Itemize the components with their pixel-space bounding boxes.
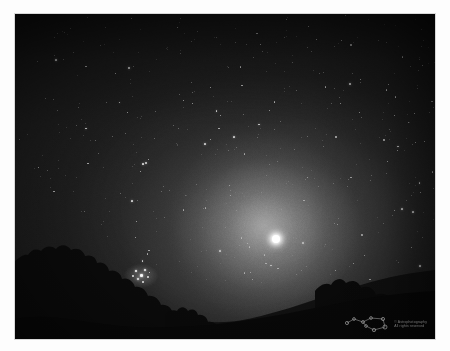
astrophotograph: © Astrophotography All rights reserved xyxy=(15,14,435,339)
watermark-text: © Astrophotography All rights reserved xyxy=(394,320,427,329)
vignette-right xyxy=(15,14,435,339)
constellation-logo xyxy=(344,314,390,334)
watermark: © Astrophotography All rights reserved xyxy=(344,314,427,334)
page-canvas: © Astrophotography All rights reserved xyxy=(0,0,450,351)
watermark-line-2: All rights reserved xyxy=(394,324,427,328)
